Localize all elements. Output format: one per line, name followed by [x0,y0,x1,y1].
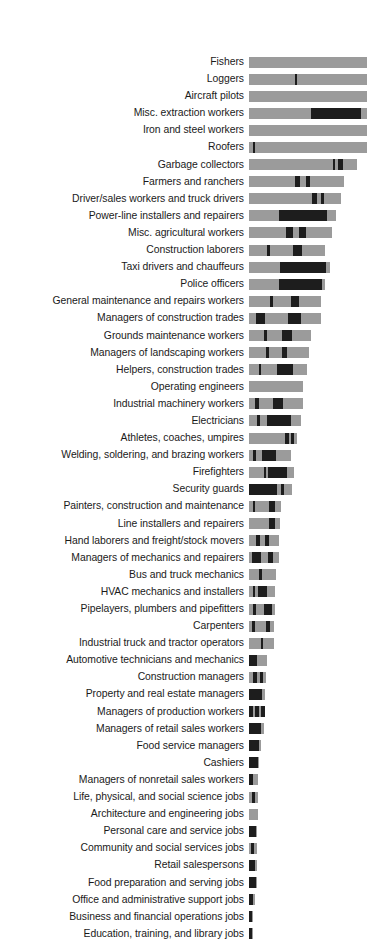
row-label: Industrial machinery workers [0,397,244,410]
bar [249,689,265,700]
chart-row: Managers of landscaping workers [0,346,367,363]
bar [249,894,255,905]
bar [249,569,276,580]
bar [249,245,325,256]
bar-segment-light [249,809,258,820]
bar-segment-light [302,245,325,256]
chart-row: Garbage collectors [0,158,367,175]
bar-segment-light [249,245,267,256]
bar-segment-light [249,467,264,478]
row-label: Business and financial operations jobs [0,910,244,923]
bar-segment-dark [277,364,293,375]
chart-row: Driver/sales workers and truck drivers [0,192,367,209]
row-label: Carpenters [0,619,244,632]
bar [249,227,332,238]
row-label: Managers of nonretail sales workers [0,773,244,786]
bar-segment-light [326,262,330,273]
row-label: Bus and truck mechanics [0,568,244,581]
bar [249,604,275,615]
row-label: Construction managers [0,670,244,683]
row-label: Life, physical, and social science jobs [0,790,244,803]
bar-segment-light [291,415,301,426]
row-label: Line installers and repairers [0,517,244,530]
bar-segment-light [249,57,367,68]
bar-segment-light [306,227,332,238]
row-label: Community and social services jobs [0,841,244,854]
chart-row: Carpenters [0,619,367,636]
row-label: Misc. extraction workers [0,106,244,119]
bar-segment-light [260,415,267,426]
chart-row: Painters, construction and maintenance [0,499,367,516]
chart-row: Police officers [0,277,367,294]
bar-segment-light [265,313,288,324]
bar [249,193,341,204]
bar [249,586,275,597]
bar-segment-light [249,279,279,290]
row-label: Grounds maintenance workers [0,329,244,342]
bar-segment-light [272,604,275,615]
chart-row: Athletes, coaches, umpires [0,431,367,448]
row-label: Painters, construction and maintenance [0,499,244,512]
chart-row: Line installers and repairers [0,517,367,534]
bar-segment-light [253,894,255,905]
bar-segment-light [249,415,257,426]
bar-segment-light [292,330,311,341]
bar [249,706,265,717]
bar [249,723,264,734]
chart-row: Misc. extraction workers [0,106,367,123]
bar-segment-light [249,159,333,170]
bar-segment-dark [282,330,292,341]
row-label: Aircraft pilots [0,89,244,102]
bar-segment-light [275,501,281,512]
row-label: Office and administrative support jobs [0,893,244,906]
bar-segment-dark [256,313,265,324]
bar-segment-dark [291,296,299,307]
bar-segment-dark [249,689,262,700]
chart-row: Industrial truck and tractor operators [0,636,367,653]
bar-segment-light [267,586,275,597]
bar-segment-dark [249,826,256,837]
bar [249,535,279,546]
bar [249,826,257,837]
bar [249,57,367,68]
bar-segment-dark [268,467,287,478]
chart-row: Personal care and service jobs [0,824,367,841]
bar [249,877,257,888]
chart-row: Managers of nonretail sales workers [0,773,367,790]
bar-segment-light [255,142,367,153]
bar-segment-light [249,125,367,136]
bar-segment-light [270,621,274,632]
row-label: Garbage collectors [0,158,244,171]
bar-segment-light [255,792,258,803]
bar-segment-dark [286,227,293,238]
bar [249,501,281,512]
bar [249,518,280,529]
chart-row: Pipelayers, plumbers and pipefitters [0,602,367,619]
bar [249,142,367,153]
bar [249,364,307,375]
row-label: Farmers and ranchers [0,175,244,188]
bar-segment-light [322,279,325,290]
bar-segment-light [267,330,282,341]
chart-row: Life, physical, and social science jobs [0,790,367,807]
chart-rows: FishersLoggersAircraft pilotsMisc. extra… [0,55,367,943]
chart-row: Fishers [0,55,367,72]
chart-row: Operating engineers [0,380,367,397]
chart-row: Construction managers [0,670,367,687]
bar-segment-light [249,176,295,187]
bar [249,774,258,785]
bar-segment-light [301,313,321,324]
bar-segment-dark [279,210,327,221]
bar-segment-light [273,296,291,307]
bar-segment-light [249,296,270,307]
chart-row: Bus and truck mechanics [0,568,367,585]
bar-segment-light [249,535,256,546]
bar-segment-light [263,638,274,649]
bar-segment-light [258,757,259,768]
bar [249,740,261,751]
bar [249,125,367,136]
chart-row: Security guards [0,482,367,499]
bar-segment-light [255,621,266,632]
bar-segment-light [310,176,344,187]
